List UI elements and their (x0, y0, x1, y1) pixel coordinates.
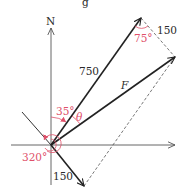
label-angle-theta: θ (76, 111, 83, 123)
parallelogram-sides (84, 18, 175, 186)
vector-diagram: g N 750 F 150 150 35° θ 320° 75° (0, 0, 185, 196)
arc-35-degrees (51, 117, 66, 122)
vectors (51, 18, 175, 186)
label-150-vector: 150 (53, 170, 73, 182)
label-angle-320: 320° (22, 151, 47, 163)
title-fragment: g (82, 0, 89, 8)
vector-F (51, 57, 175, 145)
label-750: 750 (79, 65, 99, 77)
label-150-parallelogram: 150 (157, 24, 177, 36)
label-F: F (120, 79, 129, 91)
north-label: N (46, 15, 55, 27)
label-angle-35: 35° (56, 105, 75, 117)
arc-75-degrees (135, 26, 148, 28)
reference-line-150 (22, 112, 51, 145)
label-angle-75: 75° (134, 32, 153, 44)
